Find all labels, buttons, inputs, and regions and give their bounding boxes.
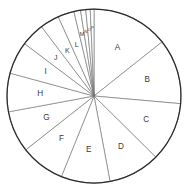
sector-label-h: H <box>37 89 43 98</box>
sector-label-l: L <box>75 41 79 48</box>
sector-label-d: D <box>118 142 124 151</box>
sector-label-g: G <box>43 113 49 122</box>
sector-label-k: K <box>65 47 70 54</box>
sector-label-e: E <box>86 145 92 154</box>
sector-label-f: F <box>59 134 64 143</box>
sector-group <box>7 9 181 183</box>
sector-label-j: J <box>54 54 58 61</box>
pie-chart-svg: ABCDEFGHIJKLMNOP <box>0 0 184 193</box>
sector-label-b: B <box>145 75 151 84</box>
sector-label-i: I <box>44 67 46 76</box>
sector-label-p: P <box>91 25 94 30</box>
sector-label-c: C <box>143 115 149 124</box>
pie-diagram-container: ABCDEFGHIJKLMNOP <box>0 0 184 193</box>
sector-label-a: A <box>115 43 121 52</box>
